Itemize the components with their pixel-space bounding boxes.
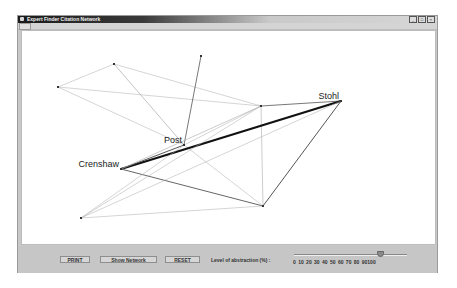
network-edge: [184, 106, 261, 145]
network-node[interactable]: [200, 55, 202, 57]
reset-button[interactable]: RESET: [165, 256, 200, 263]
node-label: Crenshaw: [78, 159, 119, 169]
abstraction-slider[interactable]: [294, 251, 407, 259]
close-icon[interactable]: ×: [427, 16, 435, 23]
app-window: Expert Finder Citation Network _ □ × Pos…: [17, 15, 438, 273]
slider-tick-labels: 0 10 20 30 40 50 60 70 80 90100: [293, 259, 376, 265]
network-edge: [121, 101, 341, 169]
network-edge: [184, 56, 201, 145]
network-edge: [261, 106, 263, 206]
node-label: Stohl: [318, 91, 339, 101]
title-bar[interactable]: Expert Finder Citation Network _ □ ×: [18, 16, 437, 23]
slider-thumb[interactable]: [377, 251, 384, 257]
network-edge: [81, 101, 341, 218]
network-node[interactable]: [340, 100, 342, 102]
network-edge: [184, 145, 263, 206]
network-edge: [58, 64, 114, 87]
tab-stub[interactable]: [19, 23, 31, 30]
tab-strip: [18, 23, 437, 30]
network-edge: [121, 145, 184, 169]
network-edge: [81, 206, 263, 218]
node-label: Post: [164, 135, 183, 145]
abstraction-label: Level of abstraction (%) :: [211, 257, 270, 263]
network-edge: [58, 87, 261, 106]
network-edge: [121, 106, 261, 169]
network-node[interactable]: [260, 105, 262, 107]
java-app-icon: [20, 17, 24, 21]
show-network-button[interactable]: Show Network: [100, 256, 157, 263]
network-edge: [263, 101, 341, 206]
slider-track[interactable]: [294, 254, 407, 256]
window-title: Expert Finder Citation Network: [27, 16, 100, 23]
network-node[interactable]: [80, 217, 82, 219]
network-edge: [114, 64, 184, 145]
print-button[interactable]: PRINT: [60, 256, 90, 263]
network-canvas[interactable]: PostStohlCrenshaw: [21, 30, 436, 245]
network-node[interactable]: [57, 86, 59, 88]
network-node[interactable]: [120, 168, 122, 170]
network-node[interactable]: [183, 144, 185, 146]
bottom-toolbar: PRINT Show Network RESET Level of abstra…: [18, 246, 437, 273]
citation-network-graph: PostStohlCrenshaw: [22, 31, 437, 246]
minimize-icon[interactable]: _: [409, 16, 417, 23]
network-node[interactable]: [113, 63, 115, 65]
network-edge: [114, 64, 261, 106]
maximize-icon[interactable]: □: [418, 16, 426, 23]
network-node[interactable]: [262, 205, 264, 207]
window-controls: _ □ ×: [409, 16, 435, 23]
